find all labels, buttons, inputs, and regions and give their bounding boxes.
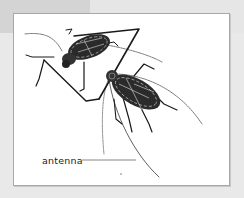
upper-beetle-mid-leg xyxy=(80,62,84,91)
upper-beetle-front-leg xyxy=(44,60,99,101)
upper-beetle-left-leg2 xyxy=(26,55,54,57)
speck xyxy=(120,173,122,175)
lower-beetle-leg4 xyxy=(134,64,154,76)
illustration-frame: antenna xyxy=(13,13,230,186)
upper-beetle-antenna-left xyxy=(24,34,62,51)
upper-beetle-left-leg xyxy=(36,60,44,86)
upper-beetle-top-leg xyxy=(66,29,72,34)
antenna-label: antenna xyxy=(42,155,83,166)
